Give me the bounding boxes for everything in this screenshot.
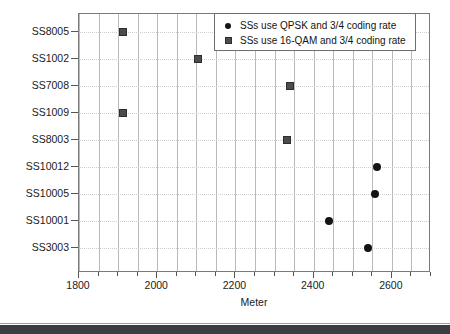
vertical-gridline [118, 14, 119, 271]
x-axis-minor-tick [98, 272, 99, 276]
vertical-gridline [294, 14, 295, 271]
y-axis-tick [71, 139, 78, 140]
horizontal-gridline [79, 86, 429, 87]
bottom-bar [0, 325, 450, 334]
horizontal-gridline [79, 113, 429, 114]
vertical-gridline [157, 14, 158, 271]
vertical-gridline [235, 14, 236, 271]
x-axis-minor-tick [176, 272, 177, 276]
y-axis-tick [71, 166, 78, 167]
x-axis-major-tick [391, 272, 392, 278]
vertical-gridline [333, 14, 334, 271]
data-point [364, 244, 372, 252]
vertical-gridline [372, 14, 373, 271]
vertical-gridline [216, 14, 217, 271]
vertical-gridline [411, 14, 412, 271]
legend-item-qpsk: SSs use QPSK and 3/4 coding rate [221, 18, 409, 33]
data-point [286, 82, 294, 90]
vertical-gridline [255, 14, 256, 271]
legend-label-qpsk: SSs use QPSK and 3/4 coding rate [240, 20, 396, 31]
x-axis-minor-tick [274, 272, 275, 276]
data-point [119, 28, 127, 36]
vertical-gridline [196, 14, 197, 271]
x-axis-tick-label: 2200 [223, 279, 246, 291]
data-point [119, 109, 127, 117]
x-axis-minor-tick [293, 272, 294, 276]
x-axis-major-tick [156, 272, 157, 278]
x-axis-minor-tick [137, 272, 138, 276]
data-point [194, 55, 202, 63]
x-axis-minor-tick [410, 272, 411, 276]
bottom-divider [0, 323, 450, 324]
vertical-gridline [79, 14, 80, 271]
horizontal-gridline [79, 140, 429, 141]
x-axis-tick-label: 2600 [379, 279, 402, 291]
x-axis-minor-tick [352, 272, 353, 276]
x-axis-minor-tick [117, 272, 118, 276]
data-point [283, 136, 291, 144]
legend-label-16qam: SSs use 16-QAM and 3/4 coding rate [240, 35, 406, 46]
data-point [371, 190, 379, 198]
y-axis-tick [71, 31, 78, 32]
x-axis-minor-tick [254, 272, 255, 276]
data-point [325, 217, 333, 225]
horizontal-gridline [79, 221, 429, 222]
y-axis-tick [71, 112, 78, 113]
x-axis-minor-tick [332, 272, 333, 276]
vertical-gridline [177, 14, 178, 271]
vertical-gridline [99, 14, 100, 271]
x-axis-minor-tick [430, 272, 431, 276]
x-axis-minor-tick [371, 272, 372, 276]
vertical-gridline [353, 14, 354, 271]
vertical-gridline [275, 14, 276, 271]
y-axis-tick [71, 58, 78, 59]
chart-legend: SSs use QPSK and 3/4 coding rate SSs use… [214, 13, 416, 51]
circle-marker-icon [221, 23, 235, 29]
x-axis-major-tick [78, 272, 79, 278]
horizontal-gridline [79, 59, 429, 60]
square-marker-icon [221, 37, 235, 44]
y-axis-tick [71, 85, 78, 86]
horizontal-gridline [79, 248, 429, 249]
x-axis-major-tick [234, 272, 235, 278]
legend-item-16qam: SSs use 16-QAM and 3/4 coding rate [221, 33, 409, 48]
x-axis-tick-label: 2400 [301, 279, 324, 291]
vertical-gridline [392, 14, 393, 271]
x-axis-major-tick [313, 272, 314, 278]
scatter-chart-figure: SS8005SS1002SS7008SS1009SS8003SS10012SS1… [0, 0, 450, 334]
x-axis-minor-tick [215, 272, 216, 276]
x-axis-minor-tick [195, 272, 196, 276]
x-axis-title: Meter [78, 296, 430, 308]
x-axis-tick-label: 1800 [66, 279, 89, 291]
data-point [373, 163, 381, 171]
y-axis-tick [71, 220, 78, 221]
plot-area [78, 13, 430, 272]
y-axis-tick [71, 193, 78, 194]
vertical-gridline [138, 14, 139, 271]
y-axis-tick [71, 247, 78, 248]
vertical-gridline [314, 14, 315, 271]
x-axis-tick-label: 2000 [145, 279, 168, 291]
y-axis-ticks [0, 13, 78, 272]
